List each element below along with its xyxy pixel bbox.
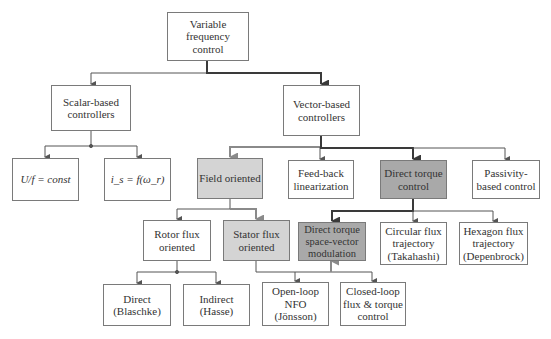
node-label: Direct torque control (384, 167, 442, 192)
edge-root-vector (207, 60, 321, 84)
node-label: Scalar-based controllers (63, 96, 119, 121)
node-label: Rotor flux oriented (154, 228, 200, 253)
node-label: Open-loop NFO (Jönsson) (272, 285, 319, 323)
diagram-canvas: Variable frequency control Scalar-based … (0, 0, 551, 339)
node-is-f-wr: i_s = f(ω_r) (104, 158, 171, 201)
edges-dtc (332, 198, 493, 221)
node-passivity-based-control: Passivity- based control (472, 160, 540, 199)
node-label: Vector-based controllers (293, 98, 350, 123)
node-label: Circular flux trajectory (Takahashi) (385, 225, 442, 263)
edge-root-scalar (91, 60, 207, 84)
edges-scalar (45, 130, 137, 157)
node-label: Stator flux oriented (233, 228, 280, 253)
node-field-oriented: Field oriented (197, 158, 263, 199)
edges-stator-flux (256, 260, 372, 281)
node-label: Hexagon flux trajectory (Depenbrock) (463, 225, 524, 263)
node-stator-flux-oriented: Stator flux oriented (223, 220, 290, 261)
edges-rotor-flux (137, 260, 216, 283)
node-rotor-flux-oriented: Rotor flux oriented (143, 220, 211, 261)
node-closed-loop-flux-torque: Closed-loop flux & torque control (340, 282, 406, 326)
node-label: Variable frequency control (186, 18, 230, 56)
node-direct-blaschke: Direct (Blaschke) (103, 284, 171, 326)
node-label: Direct (Blaschke) (113, 293, 161, 318)
node-indirect-hasse: Indirect (Hasse) (183, 284, 250, 326)
node-label: U/f = const (20, 173, 70, 186)
node-hexagon-flux-trajectory: Hexagon flux trajectory (Depenbrock) (459, 222, 528, 265)
node-circular-flux-trajectory: Circular flux trajectory (Takahashi) (380, 222, 447, 265)
node-u-f-const: U/f = const (12, 158, 79, 201)
node-label: i_s = f(ω_r) (111, 173, 165, 186)
node-label: Feed-back linearization (294, 167, 349, 192)
node-label: Direct torque space-vector modulation (304, 224, 360, 260)
node-open-loop-nfo: Open-loop NFO (Jönsson) (262, 282, 329, 326)
node-vector-based-controllers: Vector-based controllers (283, 85, 360, 136)
node-direct-torque-control: Direct torque control (380, 160, 447, 199)
node-direct-torque-svm: Direct torque space-vector modulation (298, 222, 366, 261)
node-label: Closed-loop flux & torque control (343, 285, 403, 323)
node-label: Field oriented (199, 172, 260, 185)
node-label: Passivity- based control (477, 167, 536, 192)
node-feedback-linearization: Feed-back linearization (288, 160, 354, 199)
edges-field-oriented (177, 198, 256, 219)
node-scalar-based-controllers: Scalar-based controllers (51, 85, 131, 131)
node-variable-frequency-control: Variable frequency control (167, 12, 249, 61)
edges-vector (230, 135, 505, 159)
node-label: Indirect (Hasse) (199, 293, 233, 318)
